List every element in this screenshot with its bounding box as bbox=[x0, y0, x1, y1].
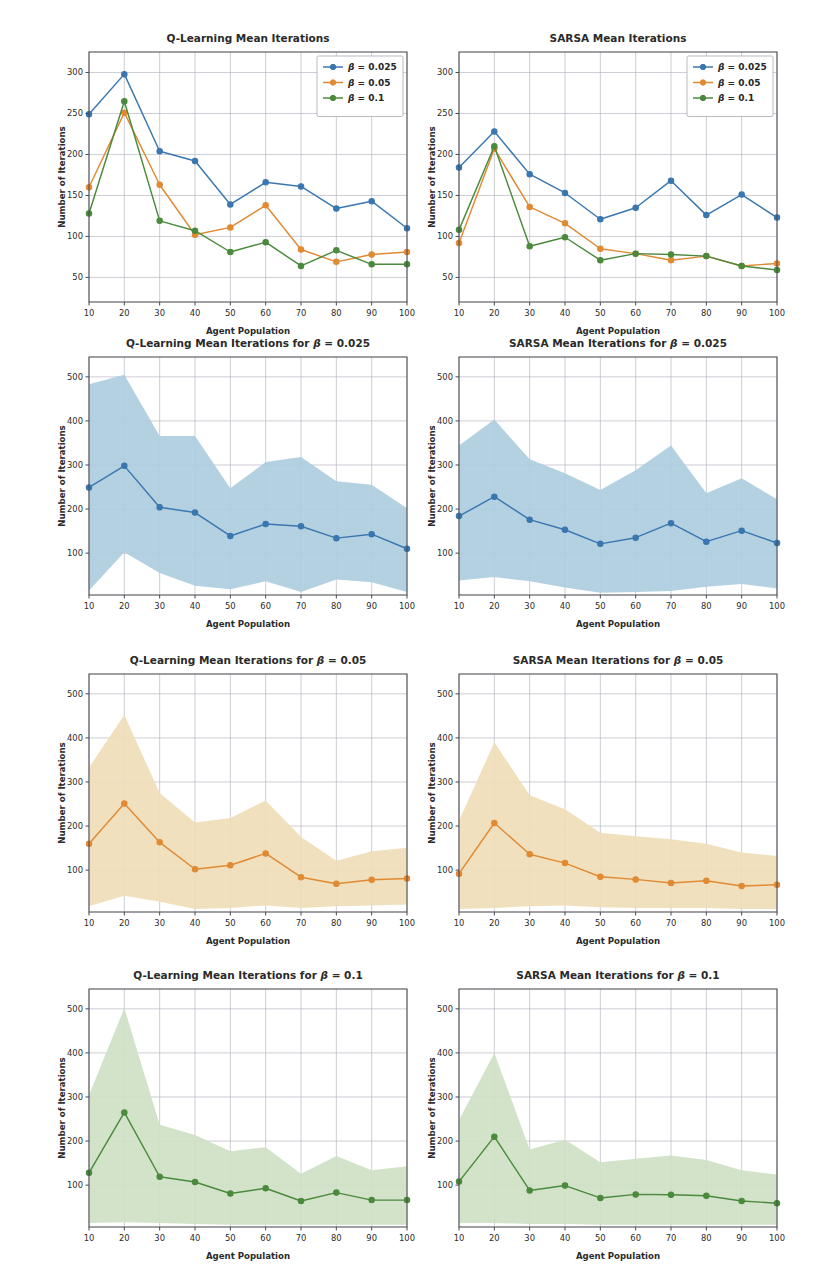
x-tick-label: 80 bbox=[331, 1233, 342, 1243]
x-tick-label: 70 bbox=[296, 308, 307, 318]
x-tick-label: 20 bbox=[489, 308, 500, 318]
x-tick-label: 60 bbox=[630, 918, 641, 928]
x-axis-label: Agent Population bbox=[576, 619, 660, 629]
legend-label: β = 0.05 bbox=[717, 78, 760, 88]
y-tick-label: 300 bbox=[437, 1092, 453, 1102]
y-tick-label: 400 bbox=[437, 416, 453, 426]
x-tick-label: 90 bbox=[736, 918, 747, 928]
x-tick-label: 40 bbox=[560, 308, 571, 318]
y-tick-label: 100 bbox=[67, 865, 83, 875]
y-axis-label: Number of Iterations bbox=[427, 742, 437, 843]
x-tick-label: 20 bbox=[119, 918, 130, 928]
confidence-band bbox=[89, 715, 407, 909]
panel-title: SARSA Mean Iterations for β = 0.05 bbox=[513, 654, 724, 666]
x-tick-label: 10 bbox=[454, 918, 465, 928]
x-tick-label: 100 bbox=[769, 601, 785, 611]
y-axis-label: Number of Iterations bbox=[57, 1057, 67, 1158]
x-tick-label: 80 bbox=[701, 1233, 712, 1243]
y-tick-label: 400 bbox=[67, 1048, 83, 1058]
x-tick-label: 70 bbox=[296, 1233, 307, 1243]
legend-label: β = 0.05 bbox=[347, 78, 390, 88]
panel-title: Q-Learning Mean Iterations for β = 0.05 bbox=[130, 654, 367, 666]
x-tick-label: 20 bbox=[489, 601, 500, 611]
x-tick-label: 50 bbox=[225, 308, 236, 318]
series-3 bbox=[86, 98, 409, 268]
y-tick-label: 200 bbox=[437, 821, 453, 831]
x-tick-label: 60 bbox=[630, 308, 641, 318]
x-tick-label: 100 bbox=[769, 308, 785, 318]
series-3 bbox=[456, 144, 779, 273]
x-tick-label: 10 bbox=[84, 918, 95, 928]
x-tick-label: 50 bbox=[225, 601, 236, 611]
panel-title: SARSA Mean Iterations bbox=[550, 32, 687, 44]
confidence-band bbox=[89, 375, 407, 592]
x-tick-label: 90 bbox=[366, 1233, 377, 1243]
y-tick-label: 100 bbox=[437, 1180, 453, 1190]
x-tick-label: 50 bbox=[595, 918, 606, 928]
x-tick-label: 60 bbox=[630, 1233, 641, 1243]
y-tick-label: 200 bbox=[67, 504, 83, 514]
x-tick-label: 10 bbox=[454, 601, 465, 611]
y-axis-label: Number of Iterations bbox=[57, 742, 67, 843]
x-tick-label: 20 bbox=[489, 918, 500, 928]
x-tick-label: 10 bbox=[84, 601, 95, 611]
x-tick-label: 40 bbox=[190, 601, 201, 611]
legend-label: β = 0.1 bbox=[717, 93, 754, 103]
chart-panel-sarsa-beta-01: SARSA Mean Iterations for β = 0.11020304… bbox=[425, 965, 785, 1265]
x-tick-label: 30 bbox=[524, 601, 535, 611]
x-tick-label: 10 bbox=[454, 308, 465, 318]
x-tick-label: 70 bbox=[296, 601, 307, 611]
y-tick-label: 100 bbox=[67, 231, 83, 241]
x-tick-label: 50 bbox=[595, 308, 606, 318]
y-tick-label: 500 bbox=[437, 372, 453, 382]
x-tick-label: 90 bbox=[736, 1233, 747, 1243]
x-tick-label: 80 bbox=[331, 918, 342, 928]
confidence-band bbox=[89, 1008, 407, 1225]
x-axis-label: Agent Population bbox=[206, 619, 290, 629]
y-tick-label: 200 bbox=[67, 149, 83, 159]
x-tick-label: 90 bbox=[366, 918, 377, 928]
y-axis-label: Number of Iterations bbox=[427, 126, 437, 227]
y-tick-label: 400 bbox=[67, 733, 83, 743]
panel-title: Q-Learning Mean Iterations for β = 0.025 bbox=[126, 337, 370, 349]
y-tick-label: 500 bbox=[437, 1004, 453, 1014]
x-tick-label: 30 bbox=[524, 918, 535, 928]
y-axis-label: Number of Iterations bbox=[427, 425, 437, 526]
y-tick-label: 400 bbox=[437, 1048, 453, 1058]
x-tick-label: 70 bbox=[666, 601, 677, 611]
y-tick-label: 500 bbox=[437, 689, 453, 699]
x-tick-label: 20 bbox=[119, 308, 130, 318]
x-tick-label: 50 bbox=[595, 1233, 606, 1243]
legend-label: β = 0.025 bbox=[347, 62, 397, 72]
y-tick-label: 500 bbox=[67, 372, 83, 382]
y-tick-label: 200 bbox=[67, 821, 83, 831]
x-axis-label: Agent Population bbox=[206, 1251, 290, 1261]
y-tick-label: 300 bbox=[437, 460, 453, 470]
figure-canvas: Q-Learning Mean Iterations10203040506070… bbox=[0, 0, 822, 1282]
y-tick-label: 200 bbox=[67, 1136, 83, 1146]
x-tick-label: 40 bbox=[190, 918, 201, 928]
x-tick-label: 100 bbox=[399, 1233, 415, 1243]
x-tick-label: 90 bbox=[366, 308, 377, 318]
x-tick-label: 100 bbox=[399, 918, 415, 928]
chart-panel-sarsa-beta-0025: SARSA Mean Iterations for β = 0.02510203… bbox=[425, 333, 785, 633]
y-tick-label: 300 bbox=[67, 67, 83, 77]
y-tick-label: 300 bbox=[437, 67, 453, 77]
x-tick-label: 60 bbox=[260, 601, 271, 611]
series-2 bbox=[86, 110, 409, 265]
x-tick-label: 30 bbox=[154, 1233, 165, 1243]
legend[interactable]: β = 0.025β = 0.05β = 0.1 bbox=[687, 56, 773, 117]
x-tick-label: 90 bbox=[366, 601, 377, 611]
y-tick-label: 400 bbox=[67, 416, 83, 426]
chart-panel-ql-beta-01: Q-Learning Mean Iterations for β = 0.110… bbox=[55, 965, 415, 1265]
x-tick-label: 100 bbox=[399, 308, 415, 318]
x-tick-label: 40 bbox=[560, 1233, 571, 1243]
y-tick-label: 300 bbox=[67, 777, 83, 787]
x-tick-label: 50 bbox=[225, 918, 236, 928]
y-tick-label: 300 bbox=[67, 460, 83, 470]
x-tick-label: 20 bbox=[119, 1233, 130, 1243]
x-tick-label: 100 bbox=[769, 1233, 785, 1243]
legend[interactable]: β = 0.025β = 0.05β = 0.1 bbox=[317, 56, 403, 117]
x-tick-label: 40 bbox=[190, 308, 201, 318]
x-tick-label: 80 bbox=[701, 918, 712, 928]
